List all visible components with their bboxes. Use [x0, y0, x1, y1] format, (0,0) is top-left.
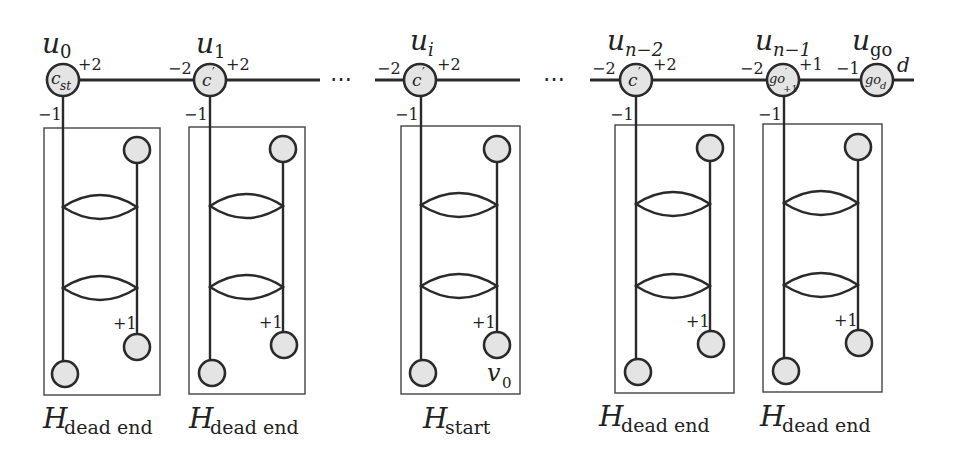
- gadget-node-top: [124, 137, 150, 163]
- node-name-sub: 0: [60, 41, 71, 62]
- gadget-node-left-bottom: [625, 359, 651, 385]
- node-name-base: u: [410, 24, 428, 57]
- right-weight: +2: [437, 55, 461, 74]
- left-weight: −1: [836, 59, 860, 78]
- left-weight: −2: [740, 59, 764, 78]
- gadget-node-right-bottom: [698, 331, 724, 357]
- node-inner-sub: +1: [783, 83, 798, 94]
- left-weight: −2: [592, 59, 616, 78]
- lens-edge: [636, 274, 710, 298]
- down-weight: −1: [758, 105, 782, 124]
- gadget-node-top: [484, 136, 510, 162]
- gadget-label-sub: dead end: [64, 416, 153, 438]
- node-u1: c ′ u 1 −2 +2 −1: [168, 27, 250, 124]
- node-inner-sub: d: [880, 80, 886, 91]
- left-weight: −2: [377, 59, 401, 78]
- node-name-base: u: [852, 24, 870, 57]
- gadget-node-right-bottom: [846, 330, 872, 356]
- down-weight: −1: [184, 105, 208, 124]
- lens-edge: [210, 275, 283, 299]
- gadget-0: +1 H dead end: [42, 96, 160, 438]
- node-name-base: u: [196, 27, 214, 60]
- node-inner-base: c: [628, 70, 638, 90]
- ellipsis-2: ⋯: [543, 66, 565, 91]
- lens-edge: [784, 191, 858, 215]
- node-inner-base: go: [865, 72, 881, 87]
- lens-edge: [421, 274, 497, 298]
- left-weight: −2: [168, 59, 192, 78]
- down-weight: −1: [38, 105, 62, 124]
- inner-weight: +1: [472, 313, 496, 332]
- node-name-sub: i: [428, 39, 434, 60]
- gadget-node-left-bottom: [52, 361, 78, 387]
- ellipsis-1: ⋯: [330, 66, 352, 91]
- right-weight: d: [897, 53, 910, 77]
- right-weight: +2: [226, 55, 250, 74]
- node-u0: c st u 0 +2 −1: [38, 27, 102, 124]
- node-ui: c ′ u i −2 +2 −1: [377, 24, 461, 124]
- inner-weight: +1: [259, 313, 283, 332]
- gadget-node-left-bottom: [410, 360, 436, 386]
- node-name-base: u: [755, 24, 773, 57]
- node-inner-sup: ′: [212, 65, 215, 80]
- node-u-n-minus-1: go ′ +1 u n−1 −2 +1 −1: [740, 24, 823, 124]
- lens-edge: [636, 192, 710, 216]
- lens-edge: [784, 273, 858, 297]
- node-u-n-minus-2: c ′ u n−2 −2 +2 −1: [592, 24, 677, 124]
- node-inner-base: c: [202, 70, 212, 90]
- right-weight: +2: [653, 55, 677, 74]
- lens-edge: [421, 193, 497, 217]
- gadget-3: +1 H dead end: [598, 96, 734, 436]
- gadget-node-v0: [484, 332, 510, 358]
- lens-edge: [210, 194, 283, 218]
- down-weight: −1: [395, 105, 419, 124]
- right-weight: +2: [78, 55, 102, 74]
- node-label-v: v: [487, 359, 501, 387]
- node-inner-sub: st: [60, 79, 71, 93]
- node-inner-sup: ′: [422, 65, 425, 80]
- gadget-node-top: [697, 135, 723, 161]
- node-name-base: u: [607, 24, 625, 57]
- right-weight: +1: [799, 55, 823, 74]
- inner-weight: +1: [113, 314, 137, 333]
- gadget-label-sub: start: [445, 416, 491, 438]
- node-inner-sup: ′: [638, 65, 641, 80]
- gadget-2-start: +1 v 0 H start: [401, 96, 520, 438]
- inner-weight: +1: [834, 311, 858, 330]
- gadget-chain-diagram: ⋯ ⋯ +1 H dead end +1 H dead end: [0, 0, 955, 455]
- gadget-4: +1 H dead end: [759, 96, 882, 436]
- gadget-node-right-bottom: [124, 334, 150, 360]
- gadget-label-sub: dead end: [621, 414, 710, 436]
- gadget-node-left-bottom: [773, 358, 799, 384]
- gadget-node-top: [845, 134, 871, 160]
- gadget-1: +1 H dead end: [188, 96, 305, 438]
- node-name-sub: go: [870, 39, 892, 60]
- node-name-base: u: [42, 27, 60, 60]
- gadget-node-right-bottom: [271, 332, 297, 358]
- node-u-go: go d u go −1 d: [836, 24, 910, 96]
- lens-edge: [63, 195, 137, 219]
- node-name-sub: 1: [214, 41, 225, 62]
- node-inner-base: c: [412, 70, 422, 90]
- gadget-node-left-bottom: [199, 360, 225, 386]
- gadget-node-top: [270, 136, 296, 162]
- inner-weight: +1: [686, 312, 710, 331]
- down-weight: −1: [610, 105, 634, 124]
- node-label-v-sub: 0: [502, 374, 512, 392]
- gadget-label-sub: dead end: [782, 414, 871, 436]
- gadget-label-sub: dead end: [210, 416, 299, 438]
- lens-edge: [63, 276, 137, 300]
